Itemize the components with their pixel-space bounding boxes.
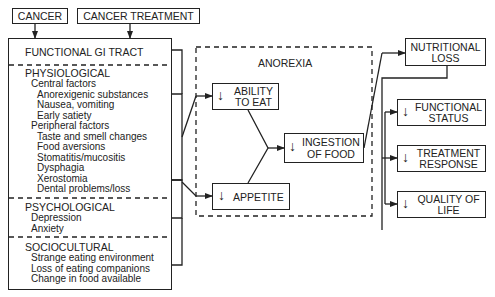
treatment-line2: RESPONSE	[412, 159, 485, 170]
appetite-label: APPETITE	[233, 192, 284, 203]
functional-status-box: ↓ FUNCTIONAL STATUS	[397, 99, 486, 126]
peripheral-item: Dental problems/loss	[37, 184, 130, 195]
peripheral-item: Dysphagia	[37, 163, 84, 174]
ingestion-line2: OF FOOD	[301, 149, 361, 160]
decrease-arrow-icon: ↓	[402, 152, 409, 163]
central-item: Nausea, vomiting	[37, 100, 114, 111]
ingestion-line1: INGESTION	[301, 137, 361, 148]
nutritional-loss-box: NUTRITIONAL LOSS	[405, 38, 486, 66]
psychological-item: Depression	[31, 213, 82, 224]
appetite-box: ↓ APPETITE	[212, 183, 290, 210]
ingestion-box: ↓ INGESTION OF FOOD	[284, 133, 364, 163]
decrease-arrow-icon: ↓	[402, 198, 409, 209]
psychological-item: Anxiety	[31, 224, 64, 235]
cancer-box: CANCER	[12, 8, 68, 24]
treatment-response-box: ↓ TREATMENT RESPONSE	[397, 145, 486, 172]
sociocultural-item: Change in food available	[31, 274, 141, 285]
decrease-arrow-icon: ↓	[218, 190, 225, 201]
cancer-treatment-box: CANCER TREATMENT	[77, 8, 200, 24]
decrease-arrow-icon: ↓	[402, 106, 409, 117]
cancer-label: CANCER	[13, 11, 67, 22]
sociocultural-item: Strange eating environment	[31, 253, 154, 264]
nutritional-line2: LOSS	[406, 53, 485, 64]
peripheral-factors-heading: Peripheral factors	[31, 121, 109, 132]
central-factors-heading: Central factors	[31, 79, 96, 90]
quality-of-life-box: ↓ QUALITY OF LIFE	[397, 191, 486, 218]
decrease-arrow-icon: ↓	[217, 90, 224, 101]
anorexia-title: ANOREXIA	[258, 58, 312, 69]
peripheral-item: Food aversions	[37, 142, 105, 153]
ability-to-eat-box: ↓ ABILITY TO EAT	[212, 83, 279, 110]
functional-line2: STATUS	[412, 113, 485, 124]
functional-gi-tract-label: FUNCTIONAL GI TRACT	[25, 47, 143, 58]
quality-line2: LIFE	[412, 205, 485, 216]
decrease-arrow-icon: ↓	[289, 141, 296, 152]
ability-line2: TO EAT	[231, 97, 276, 108]
cancer-treatment-label: CANCER TREATMENT	[78, 11, 199, 22]
